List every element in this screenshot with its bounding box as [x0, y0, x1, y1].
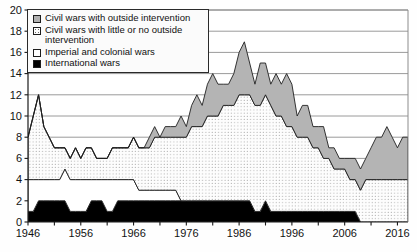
y-tick-label: 16 — [10, 46, 22, 58]
legend-label-civil-outside: Civil wars with outside intervention — [45, 13, 190, 24]
y-axis-tick-labels: 02468101214161820 — [10, 4, 22, 228]
legend-label-civil-little-or-none: Civil wars with little or no outside int… — [45, 25, 204, 46]
legend-item-civil-outside: Civil wars with outside intervention — [32, 13, 204, 24]
legend-label-international: International wars — [45, 58, 120, 69]
chart-legend: Civil wars with outside intervention Civ… — [27, 9, 209, 73]
y-tick-label: 14 — [10, 67, 22, 79]
legend-swatch-civil-outside-icon — [33, 15, 41, 23]
y-tick-label: 0 — [16, 216, 22, 228]
legend-swatch-civil-little-or-none-icon — [33, 27, 41, 35]
war-types-stacked-area-chart: 02468101214161820 1946195619661976198619… — [0, 0, 417, 252]
y-tick-label: 6 — [16, 152, 22, 164]
y-tick-label: 10 — [10, 110, 22, 122]
legend-swatch-international-icon — [33, 60, 41, 68]
y-tick-label: 18 — [10, 25, 22, 37]
y-tick-label: 12 — [10, 89, 22, 101]
x-tick-label: 2016 — [385, 227, 409, 239]
y-tick-label: 8 — [16, 131, 22, 143]
y-tick-label: 20 — [10, 4, 22, 16]
x-tick-label: 2006 — [332, 227, 356, 239]
legend-label-imperial-colonial: Imperial and colonial wars — [45, 47, 155, 58]
x-tick-label: 1996 — [280, 227, 304, 239]
x-tick-label: 1946 — [16, 227, 40, 239]
y-tick-label: 4 — [16, 173, 22, 185]
x-tick-label: 1956 — [69, 227, 93, 239]
legend-item-imperial-colonial: Imperial and colonial wars — [32, 47, 204, 58]
x-tick-label: 1966 — [121, 227, 145, 239]
x-tick-label: 1986 — [227, 227, 251, 239]
y-tick-label: 2 — [16, 195, 22, 207]
legend-swatch-imperial-colonial-icon — [33, 49, 41, 57]
legend-item-civil-little-or-none: Civil wars with little or no outside int… — [32, 25, 204, 46]
legend-item-international: International wars — [32, 58, 204, 69]
x-axis-tick-labels: 19461956196619761986199620062016 — [16, 227, 410, 239]
x-tick-label: 1976 — [174, 227, 198, 239]
